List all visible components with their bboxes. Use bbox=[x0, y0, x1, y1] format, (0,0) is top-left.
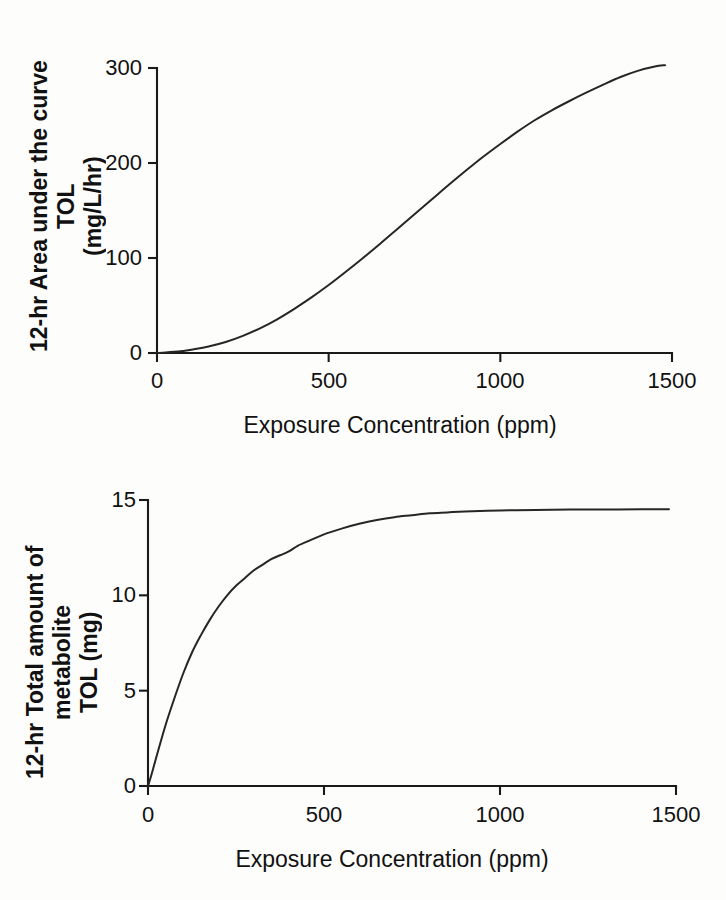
x-tick-label-auc-500: 500 bbox=[311, 368, 348, 394]
x-axis-ticks-auc bbox=[157, 353, 672, 362]
y-axis-ticks-auc bbox=[148, 68, 157, 353]
plot-area-metabolite bbox=[0, 450, 726, 900]
chart-panel-metabolite-tol: 12-hr Total amount of metabolite TOL (mg… bbox=[0, 450, 726, 900]
x-tick-label-auc-0: 0 bbox=[151, 368, 163, 394]
x-tick-label-auc-1000: 1000 bbox=[476, 368, 525, 394]
x-tick-label-metabolite-1500: 1500 bbox=[652, 802, 701, 828]
axes-auc bbox=[157, 68, 672, 353]
x-tick-label-auc-1500: 1500 bbox=[648, 368, 697, 394]
x-axis-ticks-metabolite bbox=[148, 786, 676, 795]
data-curve-auc-tol bbox=[157, 65, 665, 353]
x-tick-label-metabolite-0: 0 bbox=[142, 802, 154, 828]
x-tick-label-metabolite-500: 500 bbox=[306, 802, 343, 828]
axes-metabolite bbox=[148, 500, 676, 786]
plot-area-auc bbox=[0, 0, 726, 450]
x-axis-title-metabolite: Exposure Concentration (ppm) bbox=[235, 846, 548, 873]
x-axis-title-auc: Exposure Concentration (ppm) bbox=[243, 412, 556, 439]
x-tick-label-metabolite-1000: 1000 bbox=[476, 802, 525, 828]
data-curve-metabolite-tol bbox=[148, 509, 669, 786]
y-axis-ticks-metabolite bbox=[139, 500, 148, 786]
chart-panel-auc-tol: 12-hr Area under the curve TOL (mg/L/hr)… bbox=[0, 0, 726, 450]
